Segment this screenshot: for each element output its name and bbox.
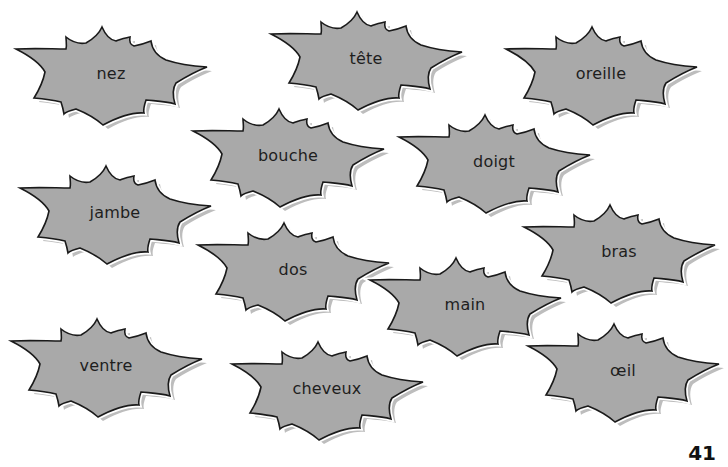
word-burst-bouche: bouche xyxy=(193,109,389,213)
word-label: cheveux xyxy=(232,379,422,398)
word-label: tête xyxy=(271,49,461,68)
word-burst-cheveux: cheveux xyxy=(232,342,428,446)
word-label: ventre xyxy=(11,356,201,375)
word-label: nez xyxy=(16,64,206,83)
word-label: oreille xyxy=(506,64,696,83)
word-label: bouche xyxy=(193,146,383,165)
word-label: main xyxy=(370,295,560,314)
word-burst-jambe: jambe xyxy=(20,166,216,270)
word-burst-oeil: œil xyxy=(528,324,724,428)
word-label: dos xyxy=(198,260,388,279)
word-label: doigt xyxy=(399,152,589,171)
word-burst-dos: dos xyxy=(198,223,394,327)
word-burst-ventre: ventre xyxy=(11,319,207,423)
word-label: œil xyxy=(528,361,718,380)
word-burst-doigt: doigt xyxy=(399,115,595,219)
word-burst-nez: nez xyxy=(16,27,212,131)
word-burst-tete: tête xyxy=(271,12,467,116)
page-number: 41 xyxy=(688,441,716,465)
worksheet-page: nez tête oreille bouche doigt xyxy=(0,0,728,467)
word-label: jambe xyxy=(20,203,210,222)
